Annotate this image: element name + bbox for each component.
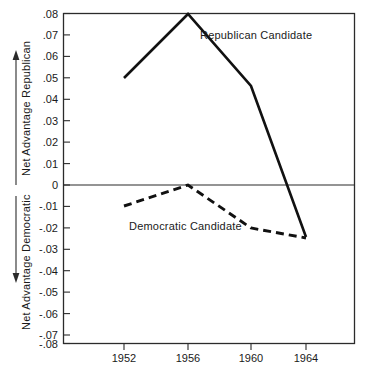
y-tick-label: 0 [52, 179, 58, 191]
y-tick-label: -.02 [39, 222, 58, 234]
y-axis-title-upper: Net Advantage Republican [20, 41, 32, 176]
y-tick-label: .04 [43, 93, 58, 105]
x-tick-label-1952: 1952 [112, 352, 136, 364]
x-axis-ticks [124, 344, 306, 351]
y-tick-label: .02 [43, 136, 58, 148]
y-tick-label: .07 [43, 29, 58, 41]
y-tick-label: .08 [43, 8, 58, 20]
y-tick-label: -.03 [39, 243, 58, 255]
y-axis-title-lower: Net Advantage Democratic [20, 194, 32, 330]
axis-arrow-up-icon [13, 50, 20, 185]
line-chart: .08 .07 .06 .05 .04 .03 .02 .01 0 -.01 -… [0, 0, 370, 367]
x-axis-tick-labels: 1952 1956 1960 1964 [112, 352, 318, 364]
y-tick-label: .06 [43, 50, 58, 62]
chart-container: .08 .07 .06 .05 .04 .03 .02 .01 0 -.01 -… [0, 0, 370, 367]
plot-frame [64, 14, 355, 344]
y-tick-label: -.05 [39, 286, 58, 298]
y-axis-ticks [64, 14, 71, 344]
y-tick-label: .03 [43, 115, 58, 127]
y-axis-tick-labels: .08 .07 .06 .05 .04 .03 .02 .01 0 -.01 -… [39, 8, 58, 350]
y-tick-label: -.04 [39, 265, 58, 277]
axis-arrow-down-icon [13, 196, 20, 283]
x-tick-label-1960: 1960 [239, 352, 263, 364]
series-label-republican: Republican Candidate [200, 29, 312, 41]
y-tick-label: .05 [43, 72, 58, 84]
x-tick-label-1956: 1956 [176, 352, 200, 364]
y-tick-label: -.08 [39, 338, 58, 350]
y-tick-label: -.06 [39, 308, 58, 320]
y-tick-label: .01 [43, 158, 58, 170]
y-tick-label: -.01 [39, 200, 58, 212]
series-line-republican [124, 14, 306, 237]
x-tick-label-1964: 1964 [294, 352, 318, 364]
series-label-democratic: Democratic Candidate [129, 220, 242, 232]
